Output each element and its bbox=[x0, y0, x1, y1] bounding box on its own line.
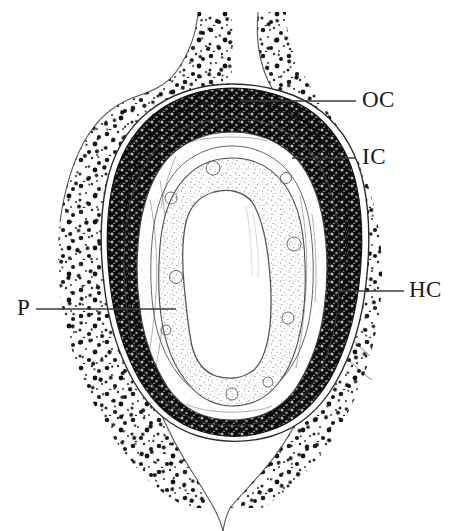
cross-section-drawing bbox=[0, 0, 465, 531]
figure-canvas: OC IC HC P bbox=[0, 0, 465, 531]
label-ic: IC bbox=[362, 145, 386, 168]
lumen-region bbox=[183, 190, 271, 378]
label-oc: OC bbox=[362, 88, 395, 111]
label-hc: HC bbox=[409, 278, 442, 301]
label-p: P bbox=[17, 296, 30, 319]
